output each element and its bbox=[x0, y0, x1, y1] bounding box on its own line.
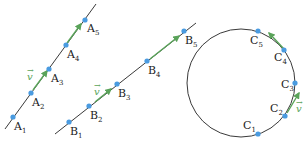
point-a4 bbox=[63, 42, 68, 47]
point-c5 bbox=[255, 28, 260, 33]
point-b3 bbox=[114, 81, 119, 86]
label-b5: B5 bbox=[185, 34, 198, 49]
velocity-vector-b-2 bbox=[150, 36, 179, 59]
label-c4: C4 bbox=[274, 51, 287, 66]
label-a1: A1 bbox=[13, 120, 26, 135]
label-b2: B2 bbox=[90, 109, 103, 124]
vector-arrow-glyph-c: → bbox=[296, 98, 303, 107]
point-b2 bbox=[86, 103, 91, 108]
trajectory-circle-c bbox=[187, 29, 295, 137]
label-a3: A3 bbox=[50, 72, 63, 87]
label-a4: A4 bbox=[66, 48, 80, 63]
label-b4: B4 bbox=[148, 64, 161, 79]
label-c2: C2 bbox=[270, 102, 283, 117]
velocity-vector-c-2 bbox=[269, 33, 284, 49]
point-a1 bbox=[10, 114, 15, 119]
label-c3: C3 bbox=[281, 78, 294, 93]
velocity-vector-a-2 bbox=[67, 24, 81, 43]
motion-diagram: v → A1 A2 A3 A4 A5 v → B1 B2 B3 B4 B5 v bbox=[0, 0, 307, 141]
panel-b: v → B1 B2 B3 B4 B5 bbox=[55, 23, 198, 140]
panel-c: v → C1 C2 C3 C4 C5 bbox=[187, 28, 303, 137]
label-c5: C5 bbox=[250, 34, 263, 49]
point-c1 bbox=[255, 131, 260, 136]
label-b1: B1 bbox=[70, 125, 83, 140]
label-a5: A5 bbox=[86, 22, 99, 37]
point-b4 bbox=[144, 58, 149, 63]
label-b3: B3 bbox=[118, 87, 131, 102]
label-c1: C1 bbox=[243, 119, 256, 134]
vector-arrow-glyph: → bbox=[27, 66, 34, 75]
velocity-vector-a bbox=[33, 71, 47, 90]
vector-arrow-glyph-b: → bbox=[94, 81, 101, 90]
point-a2 bbox=[28, 90, 33, 95]
point-b1 bbox=[66, 119, 71, 124]
panel-a: v → A1 A2 A3 A4 A5 bbox=[5, 4, 99, 135]
point-b5 bbox=[181, 28, 186, 33]
point-a3 bbox=[46, 66, 51, 71]
point-c2 bbox=[282, 113, 287, 118]
trajectory-line-a bbox=[5, 4, 96, 129]
label-a2: A2 bbox=[31, 96, 44, 111]
